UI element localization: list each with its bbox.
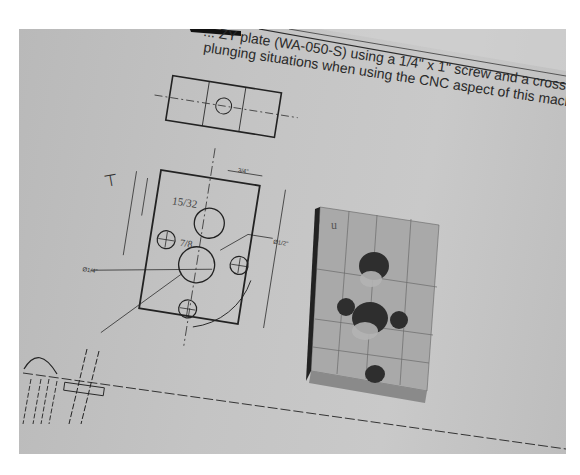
svg-text:15/32: 15/32 <box>172 194 199 210</box>
svg-text:Ø1/4": Ø1/4" <box>82 266 98 274</box>
svg-text:7/8: 7/8 <box>179 237 193 250</box>
screw-detail-drawing <box>23 349 566 449</box>
photo: ⊤ 3/4" 15/32 7/8 <box>19 29 566 454</box>
svg-text:u: u <box>331 218 337 232</box>
wooden-block: u <box>306 207 439 403</box>
top-view-drawing <box>151 73 301 140</box>
svg-text:Ø1/2": Ø1/2" <box>273 238 289 246</box>
front-view-drawing: 3/4" 15/32 7/8 Ø1/4" Ø1/2" <box>73 131 301 360</box>
svg-text:3/4": 3/4" <box>237 167 248 175</box>
svg-text:⊤: ⊤ <box>103 171 120 190</box>
